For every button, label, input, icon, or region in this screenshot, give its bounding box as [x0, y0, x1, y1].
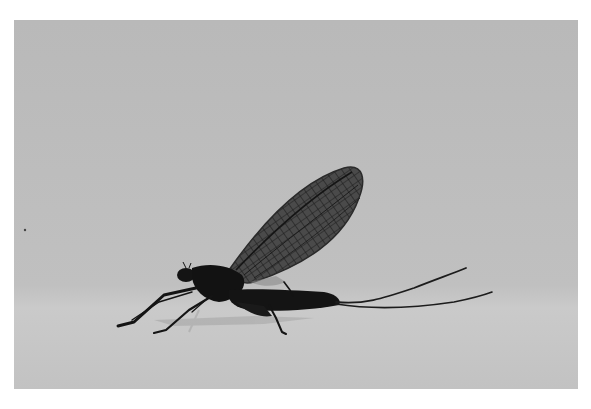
- mayfly-illustration: [14, 20, 578, 389]
- mayfly-photo: Black-and-white photograph of a mayfly w…: [14, 20, 578, 389]
- dust-speck: [24, 229, 26, 231]
